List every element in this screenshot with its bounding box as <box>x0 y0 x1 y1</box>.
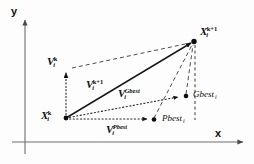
inertia-dashed-line <box>72 43 190 68</box>
node-dot-x-next <box>191 39 196 44</box>
label-v-gbest-sub: i <box>124 93 126 100</box>
node-dot-gbest <box>184 94 189 99</box>
pbest-to-next-dashed-line <box>154 45 192 118</box>
gbest-to-next-dashed-line <box>186 45 193 94</box>
label-pbest-base: Pbest <box>162 113 182 123</box>
node-dot-x-current <box>64 116 69 121</box>
label-x-next: Xik+1 <box>200 26 217 39</box>
label-x-next-sup: k+1 <box>207 25 218 32</box>
pso-diagram-figure: y x Vik Vik+1 ViGbest ViPbest Xik Xik+1 … <box>0 0 254 164</box>
label-gbest-sub: i <box>215 94 217 100</box>
label-v-current: Vik <box>47 56 57 69</box>
label-v-gbest: ViGbest <box>118 88 140 101</box>
label-v-next-sup: k+1 <box>93 78 104 85</box>
label-v-gbest-sup: Gbest <box>125 87 140 94</box>
label-v-pbest-sub: i <box>112 129 114 136</box>
label-v-current-sub: i <box>53 61 55 68</box>
label-gbest-base: Gbest <box>193 89 214 99</box>
x-axis-label: x <box>215 128 221 139</box>
label-v-pbest-sup: Pbest <box>113 123 127 130</box>
label-x-current: Xik <box>41 110 51 123</box>
label-pbest-sub: i <box>183 118 185 124</box>
label-v-next: Vik+1 <box>86 79 103 92</box>
label-x-current-sub: i <box>47 115 49 122</box>
label-v-current-sup: k <box>54 55 58 62</box>
label-v-next-sub: i <box>92 84 94 91</box>
label-gbest: Gbesti <box>193 90 217 100</box>
label-pbest: Pbesti <box>162 114 185 124</box>
label-x-next-sub: i <box>206 31 208 38</box>
resultant-velocity-line <box>66 43 191 118</box>
label-x-current-sup: k <box>48 109 52 116</box>
node-dot-pbest <box>152 117 157 122</box>
label-v-pbest: ViPbest <box>106 124 127 137</box>
y-axis-label: y <box>11 6 17 17</box>
